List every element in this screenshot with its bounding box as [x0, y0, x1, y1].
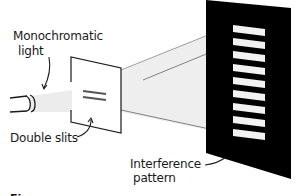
screen: [206, 0, 291, 179]
slit-plate: [71, 57, 121, 133]
label-light: light: [18, 45, 44, 58]
label-double-slits: Double slits: [10, 132, 78, 145]
label-monochromatic: Monochromatic: [13, 30, 103, 43]
label-interference: Interference: [130, 158, 201, 171]
label-pattern: pattern: [133, 172, 176, 185]
slit: [83, 91, 106, 94]
incident-beam: [30, 90, 72, 112]
interference-fringes: [233, 25, 265, 140]
arrow-slits: [77, 120, 91, 137]
arrow-light: [44, 57, 50, 88]
slit: [83, 97, 106, 100]
arrow-pattern: [205, 157, 226, 165]
double-slit-diagram: Monochromatic light Double slits Interfe…: [0, 0, 303, 196]
figure-caption: Figure: [10, 192, 50, 196]
